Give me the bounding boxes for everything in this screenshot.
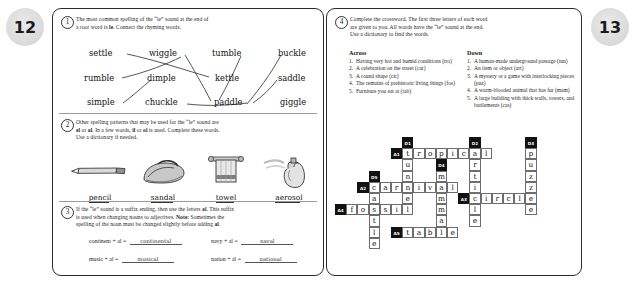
crossword-cell[interactable]: e xyxy=(525,193,536,204)
exercise-1: 1 The most common spelling of the “le” s… xyxy=(61,16,317,111)
crossword-cell[interactable]: c xyxy=(458,148,469,159)
rhyme-word-settle[interactable]: settle xyxy=(89,48,112,58)
crossword-cell[interactable]: t xyxy=(369,215,380,226)
crossword-cell[interactable]: a xyxy=(436,215,447,226)
crossword-cell[interactable]: o xyxy=(357,204,368,215)
crossword-cell[interactable]: u xyxy=(402,159,413,170)
equation-row-3[interactable]: music + al = musical xyxy=(89,256,174,263)
crossword-cell[interactable]: o xyxy=(425,148,436,159)
page-left: 1 The most common spelling of the “le” s… xyxy=(52,8,324,276)
picture-towel: towel xyxy=(197,149,255,201)
rhyme-word-saddle[interactable]: saddle xyxy=(278,73,305,83)
equation-row-4[interactable]: nation + al = national xyxy=(211,256,297,263)
rhyme-word-simple[interactable]: simple xyxy=(87,97,115,107)
rhyming-word-match[interactable]: settlewiggletumblebucklerumbledimplekett… xyxy=(75,46,319,108)
equation-row-1[interactable]: continent + al = continental xyxy=(89,238,182,245)
equation-answer-2[interactable]: naval xyxy=(241,238,293,245)
exercise-4-line3: Use a dictionary to find the words. xyxy=(350,31,429,37)
crossword-cell[interactable]: r xyxy=(413,148,424,159)
crossword-clue-marker-D5: D5 xyxy=(369,171,380,182)
exercise-3: 3 If the “le” sound is a suffix ending, … xyxy=(61,206,317,270)
crossword-cell[interactable]: a xyxy=(469,148,480,159)
crossword-cell[interactable]: z xyxy=(525,171,536,182)
crossword-cell[interactable]: t xyxy=(402,148,413,159)
crossword-cell[interactable]: p xyxy=(436,148,447,159)
rhyme-word-rumble[interactable]: rumble xyxy=(84,73,114,83)
exercise-4-number: 4 xyxy=(335,16,348,29)
crossword-cell[interactable]: r xyxy=(391,182,402,193)
crossword-cell[interactable]: z xyxy=(525,182,536,193)
crossword-cell[interactable]: l xyxy=(402,204,413,215)
across-clue-item: 5.Furniture you eat at (tab) xyxy=(349,88,461,95)
crossword-cell[interactable]: v xyxy=(425,182,436,193)
crossword-cell[interactable]: n xyxy=(402,171,413,182)
crossword-cell[interactable]: u xyxy=(525,159,536,170)
crossword-cell[interactable]: e xyxy=(469,215,480,226)
crossword-cell[interactable]: l xyxy=(447,182,458,193)
crossword-cell[interactable]: l xyxy=(469,204,480,215)
crossword-cell[interactable]: t xyxy=(469,171,480,182)
across-clue-text: The remains of prehistoric living things… xyxy=(356,80,461,87)
crossword-cell[interactable]: a xyxy=(380,182,391,193)
crossword-cell[interactable]: e xyxy=(447,227,458,238)
rhyme-word-dimple[interactable]: dimple xyxy=(147,73,176,83)
crossword-cell[interactable]: t xyxy=(402,227,413,238)
crossword-clue-marker-D3: D3 xyxy=(525,137,536,148)
crossword-cell[interactable]: a xyxy=(369,193,380,204)
crossword-cell[interactable]: c xyxy=(503,193,514,204)
crossword-cell[interactable]: a xyxy=(436,182,447,193)
crossword-cell[interactable]: m xyxy=(436,204,447,215)
rhyme-word-tumble[interactable]: tumble xyxy=(212,48,241,58)
equation-answer-3[interactable]: musical xyxy=(122,256,174,263)
rhyme-word-wiggle[interactable]: wiggle xyxy=(149,48,177,58)
crossword-cell[interactable]: i xyxy=(469,182,480,193)
rhyme-word-buckle[interactable]: buckle xyxy=(278,48,306,58)
rhyme-word-kettle[interactable]: kettle xyxy=(215,73,239,83)
crossword-cell[interactable]: r xyxy=(469,159,480,170)
crossword-cell[interactable]: l xyxy=(369,227,380,238)
crossword-cell[interactable]: i xyxy=(413,182,424,193)
down-clue-text: A mystery or a game with interlocking pi… xyxy=(474,73,579,87)
crossword-cell[interactable]: m xyxy=(436,171,447,182)
clues-across: Across 1.Having very hot and humid condi… xyxy=(349,50,461,95)
crossword-cell[interactable]: i xyxy=(391,204,402,215)
crossword-cell[interactable]: e xyxy=(369,238,380,249)
crossword-cell[interactable]: e xyxy=(402,193,413,204)
exercise-1-line1: The most common spelling of the “le” sou… xyxy=(76,16,209,22)
exercise-3-line1-pre: If the “le” sound is a suffix ending, th… xyxy=(76,206,202,212)
crossword-cell[interactable]: l xyxy=(436,227,447,238)
crossword-cell[interactable]: c xyxy=(469,193,480,204)
crossword-cell[interactable]: i xyxy=(447,148,458,159)
crossword-cell[interactable]: s xyxy=(369,204,380,215)
equation-answer-1[interactable]: continental xyxy=(130,238,182,245)
exercise-2-or-2: or xyxy=(135,127,143,133)
down-clue-item: 3.A mystery or a game with interlocking … xyxy=(467,73,579,87)
crossword-cell[interactable]: l xyxy=(481,148,492,159)
crossword-cell[interactable]: c xyxy=(369,182,380,193)
crossword-grid[interactable]: D1D2D3A1D4D5A2A3A4A5tropicalpurunmtzcarn… xyxy=(335,137,575,265)
crossword-clue-marker-A1: A1 xyxy=(391,148,402,159)
exercise-4-line1: Complete the crossword. The first three … xyxy=(350,16,487,22)
crossword-cell[interactable]: f xyxy=(346,204,357,215)
rhyme-word-paddle[interactable]: paddle xyxy=(214,97,242,107)
crossword-cell[interactable]: b xyxy=(425,227,436,238)
crossword-cell[interactable]: m xyxy=(436,193,447,204)
rhyme-word-chuckle[interactable]: chuckle xyxy=(145,97,178,107)
equation-answer-4[interactable]: national xyxy=(245,256,297,263)
exercise-1-line2-post: . Connect the rhyming words. xyxy=(113,24,181,30)
crossword-cell[interactable]: e xyxy=(525,204,536,215)
across-clue-number: 5. xyxy=(349,88,356,95)
crossword-cell[interactable]: a xyxy=(413,227,424,238)
crossword-cell[interactable]: s xyxy=(380,204,391,215)
equation-row-2[interactable]: navy + al = naval xyxy=(211,238,293,245)
crossword-cell[interactable]: n xyxy=(402,182,413,193)
crossword-cell[interactable]: i xyxy=(481,193,492,204)
exercise-4: 4 Complete the crossword. The first thre… xyxy=(335,16,577,46)
crossword-cell[interactable]: r xyxy=(492,193,503,204)
rhyme-word-giggle[interactable]: giggle xyxy=(280,97,306,107)
exercise-1-number: 1 xyxy=(61,16,74,29)
crossword-cell[interactable]: l xyxy=(514,193,525,204)
exercise-1-line2-pre: a root word is xyxy=(76,24,109,30)
across-clue-item: 4.The remains of prehistoric living thin… xyxy=(349,80,461,87)
crossword-cell[interactable]: p xyxy=(525,148,536,159)
